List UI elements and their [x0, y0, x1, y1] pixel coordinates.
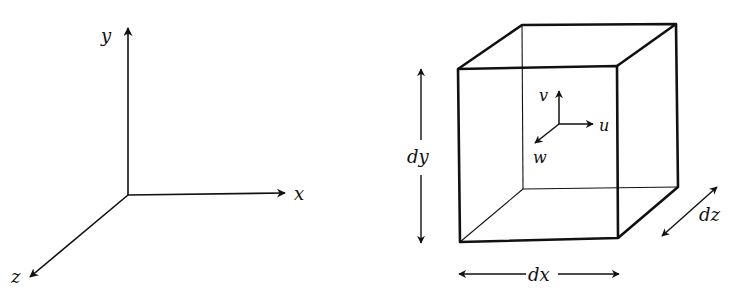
dimension-indicators: dy dx dz: [407, 69, 721, 285]
back-edge-diagonal: [460, 189, 523, 242]
right-face-edges: [618, 24, 678, 238]
back-edge-bottom: [523, 187, 678, 189]
top-face-edges: [458, 24, 676, 69]
velocity-components: v u w: [533, 86, 609, 167]
diagram-canvas: y x z v u w dy dx dz: [0, 0, 731, 297]
back-edge-vertical: [522, 25, 523, 189]
w-velocity-arrow: [535, 124, 559, 143]
coordinate-axes: y x z: [10, 25, 304, 287]
x-axis-label: x: [294, 183, 304, 204]
v-velocity-label: v: [539, 86, 548, 105]
y-axis-label: y: [100, 25, 112, 46]
z-axis-label: z: [10, 266, 21, 287]
x-axis: [128, 193, 285, 195]
w-velocity-label: w: [533, 148, 547, 167]
dy-label: dy: [407, 146, 430, 167]
dx-label: dx: [528, 264, 550, 285]
u-velocity-label: u: [599, 116, 609, 135]
fluid-element-cube: [458, 24, 678, 242]
dz-label: dz: [699, 204, 721, 225]
z-axis: [30, 195, 128, 277]
